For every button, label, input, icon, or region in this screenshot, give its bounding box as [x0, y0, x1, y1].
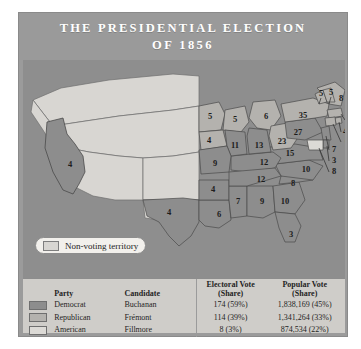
election-map[interactable]: 4455641113239121247961038101527358551346… [23, 60, 345, 278]
popular-vote-header-line2: (Share) [266, 289, 343, 298]
popular-vote-cell: 1,838,169 (45%) [264, 299, 345, 312]
table-row: AmericanFillmore8 (3%)874,534 (22%) [23, 324, 345, 337]
state-label-illinois: 11 [231, 140, 239, 150]
state-label-missouri: 9 [213, 158, 217, 168]
state-label-north-carolina: 10 [302, 164, 311, 174]
state-massachusetts[interactable] [327, 108, 343, 118]
results-table-body: DemocratBuchanan174 (59%)1,838,169 (45%)… [23, 299, 345, 337]
state-label-michigan: 6 [264, 111, 268, 121]
title-bar: THE PRESIDENTIAL ELECTION OF 1856 [19, 13, 347, 60]
electoral-vote-header: Electoral Vote (Share) [196, 279, 264, 299]
electoral-vote-cell: 174 (59%) [196, 299, 264, 312]
candidate-cell: Buchanan [122, 299, 196, 312]
page-title-line-2: OF 1856 [152, 37, 214, 54]
legend-swatch-dem [29, 301, 47, 310]
legend-swatch-ame [29, 326, 47, 335]
legend-swatch-rep [29, 313, 47, 322]
state-new-jersey[interactable] [321, 126, 331, 140]
state-label-kentucky: 12 [260, 157, 269, 167]
nonvoting-territory-legend: Non-voting territory [35, 237, 146, 254]
candidate-cell: Frémont [122, 312, 196, 325]
party-cell: Republican [52, 312, 122, 325]
map-panel: THE PRESIDENTIAL ELECTION OF 1856 [18, 12, 348, 337]
state-connecticut[interactable] [325, 117, 336, 126]
popular-vote-header-line1: Popular Vote [266, 280, 343, 289]
results-legend: Party Candidate Electoral Vote (Share) P… [23, 278, 345, 333]
state-maryland[interactable] [307, 140, 323, 150]
legend-swatch-cell [23, 312, 52, 325]
state-label-louisiana: 6 [217, 209, 221, 219]
swatch-header [23, 279, 52, 299]
state-label-maine: 8 [339, 93, 343, 103]
party-header: Party [52, 279, 122, 299]
state-label-florida: 3 [289, 229, 293, 239]
candidate-cell: Fillmore [122, 324, 196, 337]
candidate-header: Candidate [122, 279, 196, 299]
popular-vote-cell: 874,534 (22%) [264, 324, 345, 337]
state-label-delaware: 3 [332, 155, 336, 165]
state-label-alabama: 9 [260, 196, 264, 206]
state-label-pennsylvania: 27 [294, 127, 303, 137]
electoral-vote-cell: 8 (3%) [196, 324, 264, 337]
page-title-line-1: THE PRESIDENTIAL ELECTION [60, 20, 307, 37]
electoral-vote-cell: 114 (39%) [196, 312, 264, 325]
electoral-vote-header-line2: (Share) [199, 289, 263, 298]
state-label-maryland: 8 [332, 166, 336, 176]
popular-vote-header: Popular Vote (Share) [264, 279, 345, 299]
state-label-rhode-island: 4 [343, 126, 345, 136]
state-label-tennessee: 12 [257, 174, 266, 184]
state-label-vermont: 5 [319, 88, 323, 98]
nonvoting-territory-label: Non-voting territory [65, 241, 138, 251]
state-label-virginia: 15 [286, 148, 295, 158]
state-label-minnesota: 5 [208, 111, 212, 121]
popular-vote-cell: 1,341,264 (33%) [264, 312, 345, 325]
state-label-georgia: 10 [281, 196, 290, 206]
electoral-vote-header-line1: Electoral Vote [199, 280, 263, 289]
nonvoting-swatch [43, 241, 59, 251]
table-header-row: Party Candidate Electoral Vote (Share) P… [23, 279, 345, 299]
party-cell: Democrat [52, 299, 122, 312]
state-label-new-hampshire: 5 [329, 87, 333, 97]
state-label-indiana: 13 [255, 140, 264, 150]
state-label-wisconsin: 5 [233, 114, 237, 124]
table-row: DemocratBuchanan174 (59%)1,838,169 (45%) [23, 299, 345, 312]
state-label-south-carolina: 8 [291, 178, 295, 188]
legend-swatch-cell [23, 299, 52, 312]
table-row: RepublicanFrémont114 (39%)1,341,264 (33%… [23, 312, 345, 325]
state-label-ohio: 23 [278, 136, 287, 146]
party-cell: American [52, 324, 122, 337]
legend-swatch-cell [23, 324, 52, 337]
state-label-new-york: 35 [299, 110, 308, 120]
results-table: Party Candidate Electoral Vote (Share) P… [23, 279, 345, 337]
